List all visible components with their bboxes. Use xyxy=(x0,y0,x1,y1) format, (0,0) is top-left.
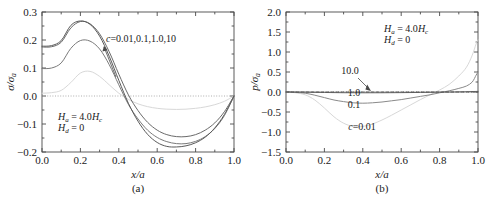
figure-container: 0.00.20.40.60.81.00.30.20.10.0−0.1−0.2x/… xyxy=(0,0,488,202)
x-tick-label: 1.0 xyxy=(227,154,241,166)
x-tick-label: 0.6 xyxy=(394,154,408,166)
panel-caption: (a) xyxy=(132,182,145,195)
x-tick-label: 1.0 xyxy=(471,154,485,166)
y-tick-label: 0.5 xyxy=(267,66,281,78)
y-tick-label: 0.0 xyxy=(23,90,37,102)
x-tick-label: 0.2 xyxy=(74,154,88,166)
inline-label-arrow-head xyxy=(365,85,371,91)
inline-label-01: 0.1 xyxy=(348,99,361,110)
y-tick-label: −1.5 xyxy=(261,146,281,158)
x-tick-label: 0.4 xyxy=(356,154,370,166)
y-tick-label: −0.5 xyxy=(261,106,281,118)
y-tick-label: −0.2 xyxy=(17,146,37,158)
inline-label-10: 10.0 xyxy=(341,65,359,76)
x-axis-title: x/a xyxy=(130,168,145,180)
panel-a-plot: 0.00.20.40.60.81.00.30.20.10.0−0.1−0.2x/… xyxy=(0,0,244,202)
annotation-demag-field: Hd = 0 xyxy=(383,34,410,47)
plot-frame xyxy=(286,12,478,152)
y-axis-title: p/σa xyxy=(248,73,262,92)
annotation-demag-field: Hd = 0 xyxy=(57,122,84,135)
x-tick-label: 0.8 xyxy=(189,154,203,166)
x-tick-label: 0.6 xyxy=(150,154,164,166)
x-axis-title: x/a xyxy=(374,168,389,180)
y-tick-label: 2.0 xyxy=(267,6,281,18)
data-curve-c-0-01 xyxy=(42,71,234,109)
y-axis-title-text: σ/σa xyxy=(4,73,18,91)
y-tick-label: 1.5 xyxy=(267,26,281,38)
inline-label-c001: c=0.01 xyxy=(348,121,376,132)
x-tick-label: 0.8 xyxy=(433,154,447,166)
x-tick-label: 0.2 xyxy=(318,154,332,166)
panel-a: 0.00.20.40.60.81.00.30.20.10.0−0.1−0.2x/… xyxy=(0,0,244,202)
x-tick-label: 0.0 xyxy=(35,154,49,166)
y-tick-label: 0.2 xyxy=(23,34,37,46)
y-tick-label: 1.0 xyxy=(267,46,281,58)
y-axis-title-text: p/σa xyxy=(248,73,262,92)
y-tick-label: 0.1 xyxy=(23,62,37,74)
x-tick-label: 0.4 xyxy=(112,154,126,166)
panel-b: 0.00.20.40.60.81.02.01.51.00.50.0−0.5−1.… xyxy=(244,0,488,202)
inline-label-1: 1.0 xyxy=(348,87,361,98)
y-axis-title: σ/σa xyxy=(4,73,18,91)
panel-b-plot: 0.00.20.40.60.81.02.01.51.00.50.0−0.5−1.… xyxy=(244,0,488,202)
y-tick-label: −0.1 xyxy=(17,118,37,130)
curve-family-label: c=0.01,0.1,1.0,10 xyxy=(106,33,176,44)
panel-caption: (b) xyxy=(376,182,389,195)
x-tick-label: 0.0 xyxy=(279,154,293,166)
y-tick-label: −1.0 xyxy=(261,126,281,138)
y-tick-label: 0.3 xyxy=(23,6,37,18)
data-curve-c-0-01 xyxy=(286,40,478,127)
y-tick-label: 0.0 xyxy=(267,86,281,98)
data-curve-c-0-1 xyxy=(286,72,478,103)
